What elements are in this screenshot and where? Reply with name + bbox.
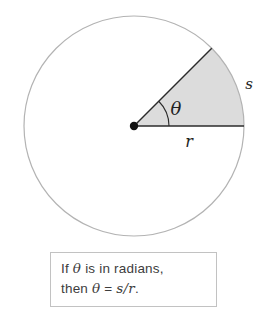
caption-line-2: then θ = s/r.: [61, 279, 210, 299]
caption-text: =: [100, 281, 116, 296]
caption-text: is in radians,: [81, 261, 164, 276]
theta-symbol: θ: [73, 260, 81, 276]
arc-length-label: s: [245, 75, 253, 93]
center-dot: [130, 122, 138, 130]
theta-label: θ: [171, 98, 182, 119]
shaded-sector: [134, 48, 244, 126]
caption-line-1: If θ is in radians,: [61, 259, 210, 279]
caption-text: .: [135, 281, 139, 296]
figure-panel: θ r s If θ is in radians, then θ = s/r.: [0, 0, 262, 328]
caption-text: If: [61, 261, 73, 276]
circle-diagram: θ r s: [0, 0, 262, 250]
radius-label: r: [185, 132, 194, 151]
s-over-r-expression: s/r: [116, 280, 135, 296]
caption-box: If θ is in radians, then θ = s/r.: [50, 252, 217, 307]
caption-text: then: [61, 281, 92, 296]
